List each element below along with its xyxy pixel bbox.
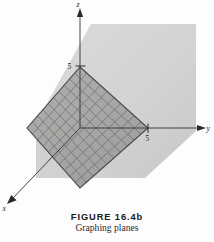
- figure-caption-subtitle: Graphing planes: [0, 223, 214, 233]
- graphing-planes-diagram: z y x 5 5: [0, 0, 214, 212]
- x-axis-label: x: [2, 204, 7, 212]
- y-axis-arrowhead: [197, 125, 206, 131]
- y-axis-label: y: [206, 124, 211, 133]
- z-axis-label: z: [76, 0, 80, 9]
- figure-caption: FIGURE 16.4b Graphing planes: [0, 212, 214, 233]
- z-axis-tick-label: 5: [68, 62, 72, 71]
- figure-container: z y x 5 5 FIGURE 16.4b Graphing planes: [0, 0, 214, 242]
- y-axis-tick-label: 5: [146, 134, 150, 143]
- figure-caption-title: FIGURE 16.4b: [0, 212, 214, 222]
- z-axis-arrowhead: [77, 8, 83, 17]
